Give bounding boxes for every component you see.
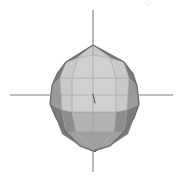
facet-upper-center	[72, 55, 116, 78]
figure-viewport: 3D shaded faceted sphere centered on cro…	[0, 0, 183, 184]
render-canvas	[0, 0, 183, 184]
facet-lower-center	[72, 112, 116, 132]
